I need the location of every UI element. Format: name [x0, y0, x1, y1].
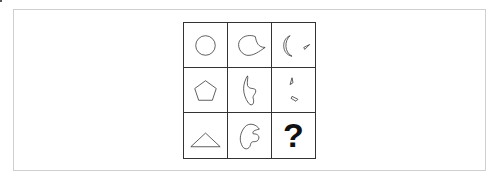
cell-r3-c2-claw [228, 113, 272, 158]
cell-r1-c1-circle [184, 23, 228, 68]
blob-shape-icon [228, 23, 271, 67]
hook-shape-icon [228, 68, 271, 112]
circle-shape-icon [184, 23, 227, 67]
cell-r2-c2-hook [228, 68, 272, 113]
pentagon-shape-icon [184, 68, 227, 112]
cell-r2-c1-pentagon [184, 68, 228, 113]
cell-r3-c3-missing: ? [272, 113, 315, 158]
claw-shape-icon [228, 113, 271, 158]
crescent-shape-icon [272, 23, 315, 67]
question-mark: ? [272, 115, 315, 155]
slivers-shape-icon [272, 68, 315, 112]
cell-r1-c3-crescent [272, 23, 315, 68]
puzzle-grid: ? [183, 22, 316, 159]
cell-r3-c1-triangle [184, 113, 228, 158]
corner-mark [0, 0, 2, 2]
cell-r1-c2-blob [228, 23, 272, 68]
cell-r2-c3-slivers [272, 68, 315, 113]
triangle-shape-icon [184, 113, 227, 158]
